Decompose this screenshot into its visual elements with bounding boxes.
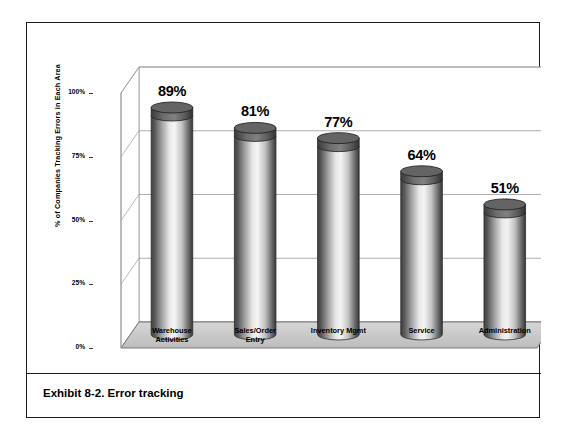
bar-cylinder: [234, 122, 276, 340]
y-tick-label: 100%: [51, 89, 85, 96]
y-tick-label: 0%: [51, 344, 85, 351]
y-tick-label: 25%: [51, 280, 85, 287]
bar-value-label: 64%: [392, 147, 452, 163]
category-label: Administration: [457, 326, 552, 335]
plot-area: 89%81%77%64%51%: [93, 41, 541, 373]
category-axis-labels: WarehouseActivitiesSales/OrderEntryInven…: [93, 326, 541, 372]
bar-cylinder: [401, 166, 443, 340]
category-label: WarehouseActivities: [124, 326, 219, 344]
caption-zone: Exhibit 8-2. Error tracking: [27, 373, 541, 419]
category-label: Service: [374, 326, 469, 335]
bar-value-label: 81%: [225, 103, 285, 119]
bar-value-label: 51%: [475, 180, 535, 196]
y-tick-label: 75%: [51, 153, 85, 160]
bar-value-label: 89%: [142, 83, 202, 99]
bar-cylinder: [484, 199, 526, 340]
category-label: Sales/OrderEntry: [208, 326, 303, 344]
exhibit-frame: % of Companies Tracking Errors in Each A…: [26, 22, 540, 418]
bar-cylinder: [151, 102, 193, 340]
category-label: Inventory Mgmt: [291, 326, 386, 335]
bar-value-label: 77%: [308, 114, 368, 130]
y-axis-ticks: 0%25%50%75%100%: [49, 23, 93, 373]
exhibit-caption: Exhibit 8-2. Error tracking: [43, 387, 184, 399]
chart-area: % of Companies Tracking Errors in Each A…: [27, 23, 541, 373]
bar-cylinder: [318, 133, 360, 340]
y-tick-label: 50%: [51, 217, 85, 224]
